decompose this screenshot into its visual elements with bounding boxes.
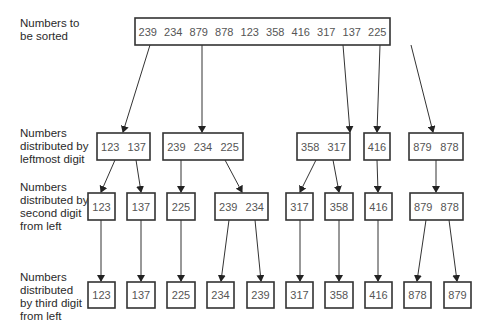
number-value: 225 (172, 289, 190, 301)
number-value: 358 (330, 201, 348, 213)
number-box-by-third-digit: 317 (286, 282, 313, 308)
number-value: 123 (92, 201, 110, 213)
row-labels: Numbers tobe sortedNumbersdistributed by… (20, 17, 89, 322)
number-value: 123 (241, 26, 259, 38)
number-value: 239 (139, 26, 157, 38)
number-value: 879 (413, 141, 431, 153)
distribution-arrow (255, 220, 261, 281)
number-value: 137 (132, 289, 150, 301)
row-label-line: Numbers to (20, 17, 79, 29)
number-value: 416 (369, 289, 387, 301)
number-value: 317 (290, 201, 308, 213)
boxes: 2392348798781233584163171372251231372392… (88, 18, 471, 308)
row-label-line: Numbers (20, 271, 67, 283)
number-box-by-leftmost-digit: 416 (364, 133, 390, 160)
number-box-by-second-digit: 239234 (215, 193, 268, 220)
number-value: 123 (101, 141, 119, 153)
number-value: 239 (167, 141, 185, 153)
number-value: 416 (292, 26, 310, 38)
row-label-line: distributed by (20, 194, 89, 206)
number-value: 878 (440, 141, 458, 153)
number-value: 358 (266, 26, 284, 38)
number-value: 234 (194, 141, 212, 153)
number-value: 317 (290, 289, 308, 301)
number-box-by-leftmost-digit: 123137 (97, 133, 150, 160)
row-label-2: Numbersdistributed byleftmost digit (20, 127, 89, 165)
number-value: 879 (448, 289, 466, 301)
number-box-by-second-digit: 137 (127, 193, 155, 220)
number-value: 225 (220, 141, 238, 153)
number-value: 239 (219, 201, 237, 213)
number-box-by-leftmost-digit: 358317 (297, 133, 350, 160)
number-box-unsorted: 239234879878123358416317137225 (135, 18, 390, 45)
distribution-arrow (136, 160, 141, 192)
number-box-by-third-digit: 416 (365, 282, 392, 308)
number-box-by-leftmost-digit: 879878 (409, 133, 463, 160)
number-box-by-second-digit: 123 (88, 193, 115, 220)
row-label-3: Numbersdistributed bysecond digitfrom le… (20, 181, 89, 232)
row-label-line: Numbers (20, 127, 67, 139)
number-box-by-leftmost-digit: 239234225 (163, 133, 243, 160)
distribution-arrow (449, 220, 457, 281)
number-value: 234 (246, 201, 264, 213)
number-value: 123 (92, 289, 110, 301)
distribution-arrow (333, 160, 339, 192)
row-label-line: distributed (20, 284, 73, 296)
number-value: 137 (132, 201, 150, 213)
number-value: 878 (441, 201, 459, 213)
number-value: 878 (215, 26, 233, 38)
row-label-line: be sorted (20, 30, 68, 42)
row-label-line: leftmost digit (20, 153, 85, 165)
number-value: 879 (414, 201, 432, 213)
number-box-by-second-digit: 225 (167, 193, 195, 220)
distribution-arrow (343, 45, 350, 132)
number-value: 137 (343, 26, 361, 38)
row-label-1: Numbers tobe sorted (20, 17, 79, 42)
number-value: 137 (128, 141, 146, 153)
number-box-by-third-digit: 123 (88, 282, 115, 308)
row-label-line: Numbers (20, 181, 67, 193)
number-box-by-third-digit: 137 (127, 282, 155, 308)
row-label-line: distributed by (20, 140, 89, 152)
number-value: 416 (368, 141, 386, 153)
row-label-line: second digit (20, 207, 82, 219)
number-box-by-third-digit: 879 (444, 282, 471, 308)
row-label-line: from left (20, 220, 62, 232)
row-label-4: Numbersdistributedby third digitfrom lef… (20, 271, 83, 322)
distribution-arrow (377, 45, 380, 132)
number-box-by-third-digit: 239 (247, 282, 274, 308)
row-label-line: by third digit (20, 297, 83, 309)
distribution-arrow (221, 220, 229, 281)
number-box-by-second-digit: 416 (365, 193, 392, 220)
number-box-by-third-digit: 234 (207, 282, 234, 308)
number-value: 317 (317, 26, 335, 38)
number-box-by-third-digit: 878 (404, 282, 431, 308)
number-box-by-third-digit: 358 (325, 282, 353, 308)
number-value: 234 (211, 289, 229, 301)
distribution-arrow (377, 160, 378, 192)
distribution-arrow (417, 220, 426, 281)
number-box-by-third-digit: 225 (167, 282, 195, 308)
number-value: 317 (328, 141, 346, 153)
number-box-by-second-digit: 317 (286, 193, 313, 220)
number-value: 225 (368, 26, 386, 38)
number-value: 878 (408, 289, 426, 301)
row-label-line: from left (20, 310, 62, 322)
distribution-arrow (300, 160, 316, 192)
edges (101, 45, 457, 281)
number-value: 239 (251, 289, 269, 301)
number-box-by-second-digit: 879878 (410, 193, 463, 220)
number-value: 879 (190, 26, 208, 38)
distribution-arrow (411, 45, 433, 132)
number-value: 234 (164, 26, 182, 38)
radix-sort-diagram: Numbers tobe sortedNumbersdistributed by… (0, 0, 490, 336)
distribution-arrow (123, 45, 150, 132)
distribution-arrow (101, 160, 115, 192)
number-box-by-second-digit: 358 (325, 193, 353, 220)
number-value: 358 (330, 289, 348, 301)
distribution-arrow (225, 160, 242, 192)
number-value: 225 (172, 201, 190, 213)
number-value: 416 (369, 201, 387, 213)
number-value: 358 (301, 141, 319, 153)
